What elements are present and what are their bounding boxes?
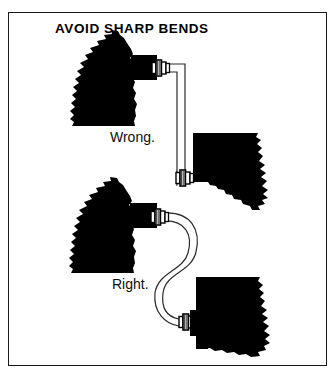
tube-wrong-outer — [164, 64, 185, 178]
block-lower-left — [69, 177, 136, 273]
tube-right-inner — [155, 221, 190, 326]
block-upper-right — [196, 133, 268, 210]
label-wrong: Wrong. — [110, 129, 155, 145]
fitting-upper-right — [176, 170, 194, 186]
block-lower-right — [199, 277, 270, 357]
label-right: Right. — [112, 276, 149, 292]
fitting-lower-left — [151, 209, 169, 225]
figure-avoid-sharp-bends: AVOID SHARP BENDS — [0, 0, 335, 374]
tube-right-outer — [163, 213, 198, 319]
tube-wrong-inner — [164, 72, 177, 171]
block-upper-left — [70, 30, 137, 126]
fitting-upper-left — [152, 60, 170, 76]
illustration-canvas — [0, 0, 335, 374]
